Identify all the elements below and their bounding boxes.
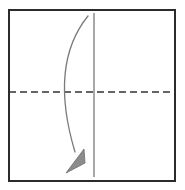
paper-sheet-outline: [9, 10, 175, 181]
fold-diagram-canvas: [0, 0, 185, 190]
origami-fold-diagram: [0, 0, 185, 190]
